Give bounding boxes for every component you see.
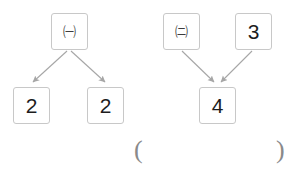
diagram-canvas: ㈠ 2 2 ㈡ 3 4 ( ) [0,0,295,174]
node-label: 2 [100,95,112,116]
node-label: 4 [212,95,224,116]
node-box-right-parent-2[interactable]: 3 [235,13,272,50]
node-label: 2 [26,95,38,116]
arrow-left-parent-to-child-2 [71,51,105,82]
node-box-right-parent-1[interactable]: ㈡ [163,13,200,50]
node-box-left-parent[interactable]: ㈠ [51,13,88,50]
circled-korean-nieun-icon: ㈡ [175,25,188,38]
node-box-left-child-2[interactable]: 2 [87,87,124,124]
node-box-right-child[interactable]: 4 [199,87,236,124]
node-label: 3 [248,21,260,42]
node-box-left-child-1[interactable]: 2 [13,87,50,124]
arrow-right-parent-2-to-child [221,51,252,82]
arrow-right-parent-1-to-child [182,51,214,82]
circled-korean-giyeok-icon: ㈠ [63,25,76,38]
arrow-left-parent-to-child-1 [33,51,67,82]
